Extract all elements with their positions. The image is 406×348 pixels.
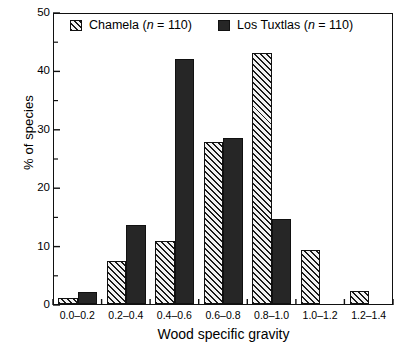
x-axis-title: Wood specific gravity [53, 326, 394, 342]
bar-group-container [54, 14, 392, 304]
legend-item-los-tuxtlas: Los Tuxtlas (n = 110) [218, 18, 353, 32]
y-axis-tick-labels: 50 40 30 20 10 0 [22, 0, 50, 348]
y-tick-50: 50 [24, 7, 50, 19]
legend-n-symbol-chamela: n [147, 18, 154, 32]
y-tick-40: 40 [24, 65, 50, 77]
plot-area [53, 13, 393, 305]
bar-los-tuxtlas-0 [78, 292, 97, 304]
legend-label-chamela: Chamela (n = 110) [89, 18, 192, 32]
bar-chamela-0 [58, 298, 77, 304]
y-tick-30: 30 [24, 124, 50, 136]
legend-n-symbol-tuxtlas: n [308, 18, 315, 32]
bar-los-tuxtlas-4 [272, 219, 291, 304]
bar-chamela-2 [155, 241, 174, 304]
legend-item-chamela: Chamela (n = 110) [70, 18, 192, 32]
legend-name-chamela: Chamela [89, 18, 139, 32]
chart-figure: % of species 50 40 30 20 10 0 [0, 0, 406, 348]
bar-chamela-5 [301, 250, 320, 304]
x-tick-1: 0.2–0.4 [108, 309, 143, 321]
bar-chamela-3 [204, 142, 223, 304]
bar-los-tuxtlas-1 [126, 225, 145, 304]
solid-swatch-icon [218, 20, 230, 31]
hatched-swatch-icon [70, 20, 82, 31]
bar-chamela-6 [350, 291, 369, 304]
legend-n-value-chamela: = 110) [154, 18, 192, 32]
x-tick-6: 1.2–1.4 [351, 309, 386, 321]
y-tick-10: 10 [24, 241, 50, 253]
bar-los-tuxtlas-3 [223, 138, 242, 304]
bar-chamela-4 [252, 53, 271, 304]
bar-los-tuxtlas-2 [175, 59, 194, 304]
legend-name-los-tuxtlas: Los Tuxtlas [237, 18, 300, 32]
x-tick-4: 0.8–1.0 [254, 309, 289, 321]
bar-chamela-1 [107, 261, 126, 304]
x-axis-tick-labels: 0.0–0.2 0.2–0.4 0.4–0.6 0.6–0.8 0.8–1.0 … [53, 309, 394, 327]
legend-label-los-tuxtlas: Los Tuxtlas (n = 110) [237, 18, 353, 32]
x-tick-3: 0.6–0.8 [205, 309, 240, 321]
x-tick-0: 0.0–0.2 [60, 309, 95, 321]
x-tick-5: 1.0–1.2 [303, 309, 338, 321]
y-tick-20: 20 [24, 182, 50, 194]
chart-legend: Chamela (n = 110) Los Tuxtlas (n = 110) [70, 18, 370, 36]
y-tick-0: 0 [24, 299, 50, 311]
x-tick-2: 0.4–0.6 [157, 309, 192, 321]
legend-n-value-tuxtlas: = 110) [315, 18, 353, 32]
